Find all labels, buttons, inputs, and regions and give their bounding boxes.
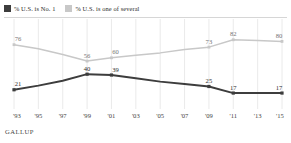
plot-area: 765660738280214039251717 xyxy=(0,19,291,111)
x-tick-label: '93 xyxy=(13,112,21,120)
value-label: 80 xyxy=(276,32,283,39)
series-line-no1 xyxy=(14,74,282,93)
x-tick-label: '05 xyxy=(156,112,164,120)
series-markers xyxy=(12,38,283,94)
source-attribution: GALLUP xyxy=(5,128,34,136)
value-label: 82 xyxy=(230,30,237,37)
x-axis: '93'95'97'99'01'03'05'07'09'11'13'15 xyxy=(0,112,291,124)
value-label: 60 xyxy=(112,48,119,55)
data-point-marker xyxy=(208,46,211,49)
data-point-marker xyxy=(85,73,88,76)
chart-svg xyxy=(0,19,291,111)
series-line-several xyxy=(14,40,282,61)
legend-swatch-no1 xyxy=(4,5,11,12)
data-point-marker xyxy=(232,38,235,41)
x-tick-label: '99 xyxy=(83,112,91,120)
x-tick-label: '97 xyxy=(59,112,67,120)
chart-container: % U.S. is No. 1 % U.S. is one of several… xyxy=(0,0,291,143)
legend-label-no1: % U.S. is No. 1 xyxy=(14,5,55,12)
data-point-marker xyxy=(110,56,113,59)
series-lines xyxy=(14,40,282,93)
data-point-marker xyxy=(281,40,284,43)
x-tick-label: '13 xyxy=(254,112,262,120)
data-point-marker xyxy=(110,73,113,76)
x-tick-label: '09 xyxy=(205,112,213,120)
gridlines xyxy=(14,19,282,109)
data-point-marker xyxy=(207,85,210,88)
data-point-marker xyxy=(12,88,15,91)
data-point-marker xyxy=(232,91,235,94)
value-label: 17 xyxy=(276,84,283,91)
x-tick-label: '07 xyxy=(181,112,189,120)
legend-item-no1[interactable]: % U.S. is No. 1 xyxy=(4,5,55,12)
chart-legend: % U.S. is No. 1 % U.S. is one of several xyxy=(0,0,291,16)
value-label: 21 xyxy=(15,80,22,87)
data-point-marker xyxy=(280,91,283,94)
value-label: 17 xyxy=(230,84,237,91)
x-tick-label: '15 xyxy=(276,112,284,120)
legend-item-several[interactable]: % U.S. is one of several xyxy=(65,5,139,12)
data-point-marker xyxy=(86,60,89,63)
x-tick-label: '95 xyxy=(34,112,42,120)
legend-divider xyxy=(4,17,287,18)
data-point-marker xyxy=(13,43,16,46)
value-label: 39 xyxy=(112,66,119,73)
x-tick-label: '11 xyxy=(229,112,237,120)
value-label: 25 xyxy=(206,77,213,84)
legend-swatch-several xyxy=(65,5,72,12)
value-label: 40 xyxy=(84,65,91,72)
legend-label-several: % U.S. is one of several xyxy=(75,5,139,12)
value-label: 73 xyxy=(206,38,213,45)
value-label: 56 xyxy=(84,52,91,59)
x-tick-label: '01 xyxy=(108,112,116,120)
x-tick-label: '03 xyxy=(132,112,140,120)
value-label: 76 xyxy=(15,35,22,42)
